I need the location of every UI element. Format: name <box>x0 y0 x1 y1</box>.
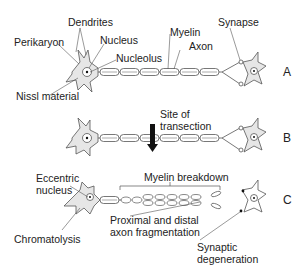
label-chromatolysis: Chromatolysis <box>14 233 81 245</box>
label-synapse: Synapse <box>218 16 259 28</box>
panel-label-c: C <box>283 193 292 207</box>
label-eccentric-nucleus: nucleus <box>36 184 72 196</box>
panel-label-b: B <box>283 131 291 145</box>
fragmented-myelin <box>100 190 221 209</box>
label-axon-fragmentation: axon fragmentation <box>110 226 200 238</box>
label-transection: transection <box>160 120 211 132</box>
neuron-transection-diagram: A B C Dendrites Perikaryon Nucleus Nucle… <box>0 0 308 270</box>
label-nucleolus: Nucleolus <box>116 52 162 64</box>
label-myelin-breakdown: Myelin breakdown <box>144 171 229 183</box>
label-perikaryon: Perikaryon <box>14 36 64 48</box>
label-dendrites: Dendrites <box>68 16 113 28</box>
label-proximal-distal: Proximal and distal <box>110 214 199 226</box>
label-nissl-material: Nissl material <box>16 90 79 102</box>
label-nucleus: Nucleus <box>100 34 138 46</box>
label-site-of: Site of <box>160 108 190 120</box>
label-synaptic: Synaptic <box>197 241 237 253</box>
label-degeneration: degeneration <box>197 253 258 265</box>
label-axon: Axon <box>189 40 213 52</box>
label-eccentric: Eccentric <box>36 172 79 184</box>
label-myelin: Myelin <box>170 26 200 38</box>
panel-label-a: A <box>283 65 291 79</box>
